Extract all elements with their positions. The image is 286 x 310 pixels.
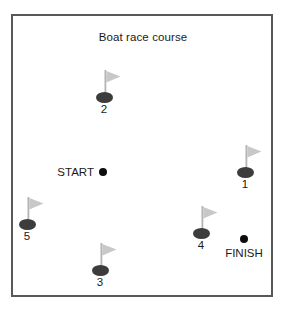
buoy-base-icon [237, 167, 254, 178]
start-dot-icon [99, 168, 107, 176]
page-title: Boat race course [0, 31, 286, 43]
buoy-base-icon [19, 219, 36, 230]
buoy-base-icon [193, 228, 210, 239]
start-label: START [57, 166, 94, 178]
buoy-label: 2 [90, 103, 118, 115]
buoy-label: 5 [13, 230, 41, 242]
boat-race-course-figure: Boat race course 2 1 [0, 0, 286, 310]
buoy-label: 3 [86, 276, 114, 288]
finish-label: FINISH [225, 247, 263, 259]
buoy-label: 4 [187, 239, 215, 251]
buoy-base-icon [92, 265, 109, 276]
finish-dot-icon [240, 235, 248, 243]
buoy-label: 1 [231, 178, 259, 190]
buoy-base-icon [96, 92, 113, 103]
